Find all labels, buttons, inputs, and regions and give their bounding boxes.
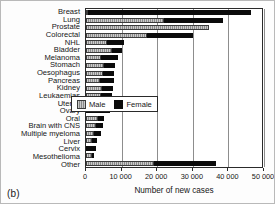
bar-row bbox=[86, 69, 262, 77]
bar-segment-male bbox=[86, 161, 154, 166]
bar-segment-female bbox=[103, 71, 114, 76]
bar-segment-female bbox=[147, 33, 193, 38]
x-tick-label: 20 000 bbox=[145, 172, 167, 181]
bar-row bbox=[86, 77, 262, 85]
legend-item: Male bbox=[77, 100, 105, 109]
stacked-bar bbox=[86, 10, 251, 15]
stacked-bar bbox=[86, 25, 209, 30]
x-axis: 010 00020 00030 00040 00050 000 bbox=[85, 168, 263, 182]
bar-segment-female bbox=[98, 116, 105, 121]
bar-row bbox=[86, 62, 262, 70]
bar-segment-male bbox=[86, 78, 100, 83]
x-tick-label: 0 bbox=[83, 172, 87, 181]
bar-row bbox=[86, 114, 262, 122]
bar-segment-male bbox=[86, 131, 94, 136]
bar-segment-female bbox=[96, 123, 103, 128]
stacked-bar bbox=[86, 55, 118, 60]
bar-row bbox=[86, 122, 262, 130]
bar-row bbox=[86, 24, 262, 32]
bar-row bbox=[86, 47, 262, 55]
y-axis-category-labels: BreastLungProstateColorectalNHLBladderMe… bbox=[1, 8, 83, 168]
gridline bbox=[264, 9, 265, 167]
bar-segment-female bbox=[104, 63, 115, 68]
stacked-bar bbox=[86, 78, 114, 83]
legend-label: Male bbox=[89, 100, 105, 109]
bar-segment-female bbox=[107, 40, 124, 45]
stacked-bar bbox=[86, 18, 223, 23]
bar-row bbox=[86, 130, 262, 138]
legend-swatch-female bbox=[114, 100, 123, 109]
bar-row bbox=[86, 160, 262, 168]
bar-segment-male bbox=[86, 63, 104, 68]
bar-segment-female bbox=[100, 78, 114, 83]
stacked-bar bbox=[86, 71, 114, 76]
x-tick-label: 40 000 bbox=[216, 172, 238, 181]
stacked-bar bbox=[86, 161, 216, 166]
bar-segment-male bbox=[86, 86, 102, 91]
stacked-bar bbox=[86, 138, 97, 143]
bar-segment-male bbox=[86, 123, 96, 128]
stacked-bar bbox=[86, 153, 94, 158]
stacked-bar bbox=[86, 123, 103, 128]
panel-label: (b) bbox=[7, 188, 20, 199]
bar-segment-male bbox=[86, 40, 107, 45]
bar-segment-female bbox=[154, 161, 216, 166]
bar-segment-female bbox=[164, 18, 223, 23]
legend-item: Female bbox=[114, 100, 151, 109]
bar-segment-male bbox=[86, 48, 112, 53]
bar-row bbox=[86, 17, 262, 25]
bar-segment-male bbox=[86, 25, 209, 30]
bar-row bbox=[86, 32, 262, 40]
x-tick-label: 30 000 bbox=[181, 172, 203, 181]
bar-segment-female bbox=[94, 131, 100, 136]
bar-segment-female bbox=[101, 55, 118, 60]
bar-segment-male bbox=[86, 71, 103, 76]
plot-area bbox=[85, 8, 263, 168]
legend-label: Female bbox=[126, 100, 151, 109]
stacked-bar bbox=[86, 146, 96, 151]
bar-row bbox=[86, 39, 262, 47]
bar-row bbox=[86, 145, 262, 153]
stacked-bar bbox=[86, 48, 122, 53]
bar-segment-female bbox=[92, 138, 97, 143]
bar-series-container bbox=[86, 9, 262, 167]
bar-row bbox=[86, 9, 262, 17]
bar-segment-female bbox=[88, 10, 251, 15]
bar-segment-male bbox=[86, 33, 147, 38]
stacked-bar bbox=[86, 63, 115, 68]
category-label: Other bbox=[1, 161, 83, 169]
bar-row bbox=[86, 54, 262, 62]
stacked-bar bbox=[86, 86, 113, 91]
bar-segment-female bbox=[112, 48, 121, 53]
stacked-bar bbox=[86, 33, 193, 38]
figure-panel-b: BreastLungProstateColorectalNHLBladderMe… bbox=[0, 0, 275, 204]
legend-swatch-male bbox=[77, 100, 86, 109]
bar-segment-female bbox=[86, 146, 96, 151]
bar-segment-female bbox=[92, 153, 94, 158]
x-tick-label: 10 000 bbox=[109, 172, 131, 181]
stacked-bar bbox=[86, 40, 124, 45]
bar-row bbox=[86, 152, 262, 160]
bar-segment-male bbox=[86, 116, 98, 121]
bar-segment-male bbox=[86, 18, 164, 23]
bar-segment-female bbox=[102, 86, 112, 91]
stacked-bar bbox=[86, 116, 104, 121]
x-tick-label: 50 000 bbox=[252, 172, 274, 181]
bar-row bbox=[86, 84, 262, 92]
bar-row bbox=[86, 137, 262, 145]
x-axis-title: Number of new cases bbox=[85, 186, 263, 195]
bar-segment-male bbox=[86, 55, 101, 60]
stacked-bar bbox=[86, 131, 101, 136]
legend: MaleFemale bbox=[71, 96, 158, 112]
